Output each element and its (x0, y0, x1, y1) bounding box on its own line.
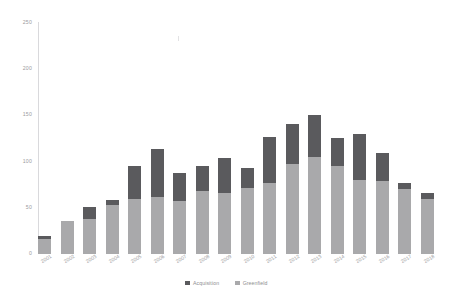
bar-segment-acquisition-2009[interactable] (218, 158, 231, 193)
plot-area (38, 22, 434, 254)
bar-segment-acquisition-2013[interactable] (308, 115, 321, 157)
legend-label-acquisition: Acquisition (193, 280, 219, 286)
x-axis-tick-2008: 2008 (197, 253, 219, 277)
legend-item-acquisition[interactable]: Acquisition (185, 280, 219, 286)
bar-segment-acquisition-2011[interactable] (263, 137, 276, 183)
legend-label-greenfield: Greenfield (243, 280, 268, 286)
bar-segment-greenfield-2007[interactable] (173, 201, 186, 254)
y-axis-tick-150: 150 (23, 111, 32, 117)
x-axis-tick-labels: 2001200220032004200520062007200820092010… (38, 256, 434, 276)
x-axis-tick-2015: 2015 (354, 253, 376, 277)
x-axis-tick-2007: 2007 (174, 253, 196, 277)
bar-column-2008[interactable] (196, 23, 209, 254)
bar-column-2016[interactable] (376, 23, 389, 254)
bar-segment-acquisition-2007[interactable] (173, 173, 186, 202)
bar-segment-acquisition-2010[interactable] (241, 168, 254, 188)
bar-segment-acquisition-2006[interactable] (151, 149, 164, 197)
bar-column-2010[interactable] (241, 23, 254, 254)
bar-column-2017[interactable] (398, 23, 411, 254)
bar-segment-greenfield-2018[interactable] (421, 199, 434, 254)
y-axis-tick-100: 100 (23, 158, 32, 164)
x-axis-tick-2014: 2014 (332, 253, 354, 277)
legend-swatch-icon-acquisition (185, 281, 190, 286)
bar-column-2009[interactable] (218, 23, 231, 254)
stacked-bar-chart: 050100150200250 200120022003200420052006… (0, 0, 453, 300)
y-axis-tick-200: 200 (23, 65, 32, 71)
bar-column-2006[interactable] (151, 23, 164, 254)
bar-segment-greenfield-2014[interactable] (331, 166, 344, 254)
legend-swatch-icon-greenfield (235, 281, 240, 286)
bar-segment-greenfield-2012[interactable] (286, 164, 299, 254)
x-axis-tick-2011: 2011 (264, 253, 286, 277)
y-axis-tick-labels: 050100150200250 (0, 0, 36, 300)
bar-segment-greenfield-2015[interactable] (353, 180, 366, 254)
bar-column-2005[interactable] (128, 23, 141, 254)
bar-column-2002[interactable] (61, 23, 74, 254)
bar-segment-acquisition-2015[interactable] (353, 134, 366, 180)
bar-segment-acquisition-2005[interactable] (128, 166, 141, 198)
bar-segment-greenfield-2008[interactable] (196, 191, 209, 254)
y-axis-tick-250: 250 (23, 19, 32, 25)
bar-segment-greenfield-2016[interactable] (376, 181, 389, 254)
bar-column-2013[interactable] (308, 23, 321, 254)
bar-segment-greenfield-2002[interactable] (61, 221, 74, 254)
x-axis-tick-2012: 2012 (287, 253, 309, 277)
legend-item-greenfield[interactable]: Greenfield (235, 280, 267, 286)
bar-segment-greenfield-2006[interactable] (151, 197, 164, 254)
x-axis-tick-2009: 2009 (219, 253, 241, 277)
bar-segment-greenfield-2009[interactable] (218, 193, 231, 254)
x-axis-tick-2010: 2010 (242, 253, 264, 277)
x-axis-tick-2002: 2002 (62, 253, 84, 277)
x-axis-tick-2017: 2017 (399, 253, 421, 277)
x-axis-tick-2013: 2013 (309, 253, 331, 277)
bar-column-2003[interactable] (83, 23, 96, 254)
bar-series-container (38, 23, 434, 254)
chart-legend: AcquisitionGreenfield (0, 280, 453, 286)
x-axis-tick-2006: 2006 (152, 253, 174, 277)
bar-segment-acquisition-2003[interactable] (83, 207, 96, 219)
bar-column-2001[interactable] (38, 23, 51, 254)
x-axis-tick-2005: 2005 (129, 253, 151, 277)
x-axis-tick-2001: 2001 (39, 253, 61, 277)
bar-segment-greenfield-2013[interactable] (308, 157, 321, 254)
bar-segment-greenfield-2017[interactable] (398, 189, 411, 254)
bar-segment-greenfield-2003[interactable] (83, 219, 96, 254)
bar-column-2014[interactable] (331, 23, 344, 254)
x-axis-tick-2004: 2004 (107, 253, 129, 277)
x-axis-tick-2003: 2003 (84, 253, 106, 277)
bar-segment-acquisition-2016[interactable] (376, 153, 389, 181)
bar-column-2018[interactable] (421, 23, 434, 254)
x-axis-tick-2018: 2018 (422, 253, 444, 277)
bar-segment-greenfield-2010[interactable] (241, 188, 254, 254)
bar-segment-greenfield-2004[interactable] (106, 205, 119, 254)
bar-segment-acquisition-2008[interactable] (196, 166, 209, 191)
bar-segment-greenfield-2011[interactable] (263, 183, 276, 254)
bar-column-2004[interactable] (106, 23, 119, 254)
bar-segment-greenfield-2005[interactable] (128, 199, 141, 254)
bar-column-2012[interactable] (286, 23, 299, 254)
bar-column-2015[interactable] (353, 23, 366, 254)
bar-column-2011[interactable] (263, 23, 276, 254)
bar-column-2007[interactable] (173, 23, 186, 254)
x-axis-tick-2016: 2016 (377, 253, 399, 277)
y-axis-tick-50: 50 (26, 204, 32, 210)
bar-segment-acquisition-2012[interactable] (286, 124, 299, 165)
bar-segment-acquisition-2014[interactable] (331, 138, 344, 167)
y-axis-tick-0: 0 (29, 250, 32, 256)
